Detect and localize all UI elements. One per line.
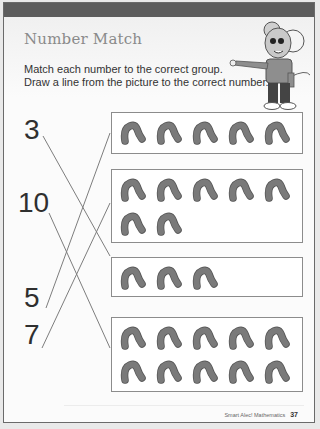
page-number: 37 — [290, 411, 298, 418]
line-10-to-group4 — [49, 213, 110, 348]
book-title: Smart Alec! Mathematics — [224, 412, 285, 418]
page-footer: Smart Alec! Mathematics37 — [224, 411, 298, 418]
matching-lines — [4, 3, 316, 424]
footer-divider — [64, 405, 304, 406]
worksheet-page: Number Match Match each number to the co… — [3, 2, 315, 423]
line-3-to-group3 — [43, 136, 110, 256]
